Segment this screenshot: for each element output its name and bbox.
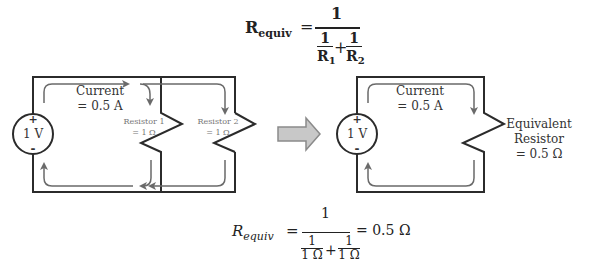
resistor-2-label: Resistor 2 = 1 Ω	[190, 116, 246, 138]
bottom-formula-numerator: 1	[321, 205, 330, 221]
left-source-minus: -	[19, 142, 47, 156]
bottom-formula-equals: =	[286, 222, 299, 240]
right-source-minus: -	[343, 142, 371, 156]
bottom-formula-result: = 0.5 Ω	[356, 222, 411, 238]
bottom-formula-lhs: Requiv	[232, 222, 274, 243]
right-source-plus: +	[343, 115, 371, 125]
left-source-plus: +	[19, 115, 47, 125]
resistor-1-label: Resistor 1 = 1 Ω	[116, 116, 172, 138]
bottom-formula-fraction-bar	[302, 232, 350, 233]
equivalent-resistor-label: Equivalent Resistor = 0.5 Ω	[504, 117, 574, 162]
right-arrow-icon	[278, 118, 320, 150]
right-current-label: Current = 0.5 A	[380, 84, 460, 114]
left-current-label: Current = 0.5 A	[60, 84, 140, 114]
bottom-formula-term-2: 1 1 Ω	[338, 235, 360, 262]
bottom-formula-term-1: 1 1 Ω	[301, 235, 323, 262]
left-source-label: 1 V	[13, 127, 53, 141]
right-source-label: 1 V	[337, 127, 377, 141]
bottom-formula-plus: +	[325, 242, 337, 258]
bottom-formula: Requiv = 1 1 1 Ω + 1 1 Ω = 0.5 Ω	[0, 200, 589, 276]
